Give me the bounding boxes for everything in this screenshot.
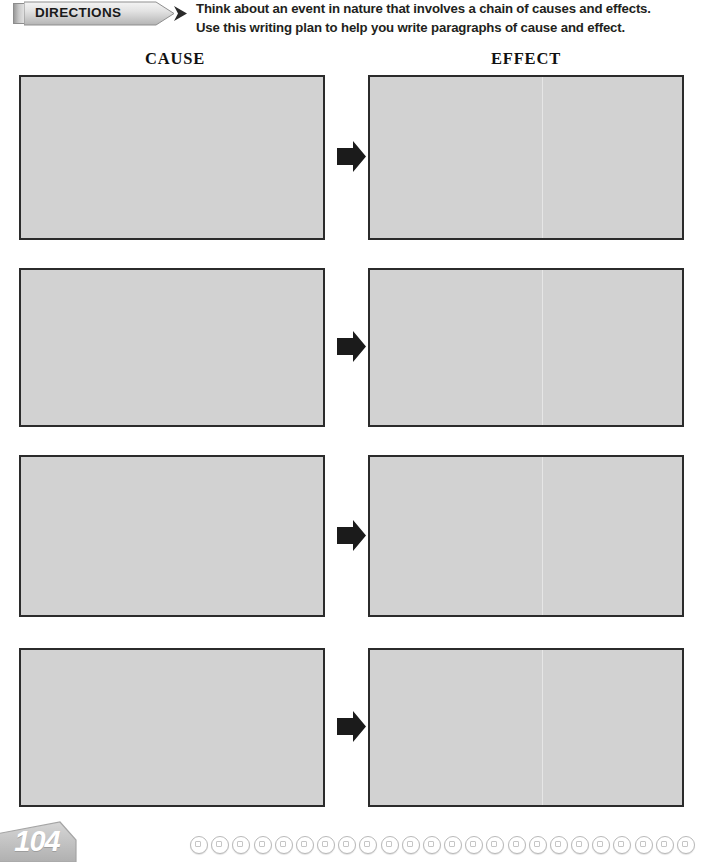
paper-seam [542,457,543,615]
binding-ring [656,836,674,854]
directions-banner-label: DIRECTIONS [35,5,121,20]
effect-box-1[interactable] [368,75,684,240]
paper-seam [542,270,543,425]
binding-ring [423,836,441,854]
paper-seam [542,650,543,805]
spiral-binding-rings [190,833,695,857]
effect-box-4[interactable] [368,648,684,807]
binding-ring [338,836,356,854]
directions-line-2: Use this writing plan to help you write … [196,19,696,38]
binding-ring [232,836,250,854]
effect-box-2[interactable] [368,268,684,427]
cause-box-3[interactable] [19,455,325,617]
binding-ring [635,836,653,854]
binding-ring [254,836,272,854]
binding-ring [296,836,314,854]
directions-instructions: Think about an event in nature that invo… [196,0,696,37]
binding-ring [444,836,462,854]
binding-ring [317,836,335,854]
effect-column-heading: EFFECT [446,49,606,69]
right-arrow-icon-1 [335,140,367,173]
binding-ring [211,836,229,854]
cause-column-heading: CAUSE [95,49,255,69]
table-row [0,455,701,617]
table-row [0,268,701,427]
binding-ring [550,836,568,854]
binding-ring [508,836,526,854]
binding-ring [275,836,293,854]
binding-ring [486,836,504,854]
binding-ring [529,836,547,854]
table-row [0,648,701,807]
binding-ring [402,836,420,854]
right-arrow-icon-3 [335,519,367,552]
right-arrow-icon-4 [335,710,367,743]
cause-box-1[interactable] [19,75,325,240]
binding-ring [465,836,483,854]
binding-ring [592,836,610,854]
binding-ring [677,836,695,854]
binding-ring [613,836,631,854]
right-arrow-icon-2 [335,330,367,363]
binding-ring [381,836,399,854]
page-number: 104 [5,825,69,858]
cause-box-4[interactable] [19,648,325,807]
effect-box-3[interactable] [368,455,684,617]
binding-ring [571,836,589,854]
directions-line-1: Think about an event in nature that invo… [196,0,696,19]
binding-ring [359,836,377,854]
table-row [0,75,701,240]
cause-box-2[interactable] [19,268,325,427]
binding-ring [190,836,208,854]
paper-seam [542,77,543,238]
directions-banner: DIRECTIONS [13,1,188,26]
